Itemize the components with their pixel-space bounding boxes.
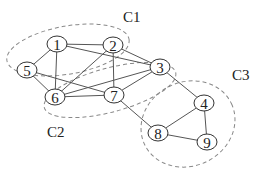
- node-6: 6: [45, 89, 65, 106]
- node-label: 4: [200, 96, 208, 112]
- node-label: 6: [51, 90, 59, 106]
- cluster-c3-boundary: [127, 66, 250, 183]
- node-label: 1: [53, 37, 61, 53]
- node-label: 3: [156, 60, 164, 76]
- node-label: 9: [203, 135, 211, 151]
- node-label: 7: [110, 88, 118, 104]
- node-3: 3: [150, 59, 170, 76]
- node-label: 8: [154, 126, 162, 142]
- community-graph-diagram: 1 2 3 4 5 6 7 8 9 C1 C2 C3: [0, 0, 257, 190]
- node-4: 4: [194, 95, 214, 112]
- cluster-label-c1: C1: [123, 9, 141, 25]
- node-8: 8: [148, 125, 168, 142]
- node-9: 9: [197, 134, 217, 151]
- node-label: 5: [23, 63, 31, 79]
- cluster-label-c3: C3: [232, 67, 250, 83]
- cluster-label-c2: C2: [47, 124, 65, 140]
- node-label: 2: [109, 38, 117, 54]
